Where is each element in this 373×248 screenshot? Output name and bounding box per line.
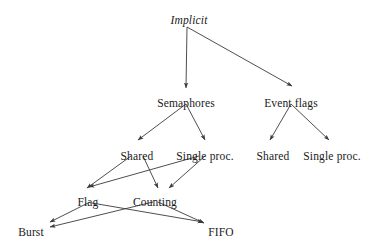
node-flag: Flag [77,196,98,208]
node-sem-single-proc: Single proc. [176,150,233,162]
edge-implicit-event-flags [187,27,292,86]
edge-eventflags-single [291,104,329,140]
node-flags-single-proc: Single proc. [303,150,360,162]
node-semaphores: Semaphores [157,97,215,109]
node-counting: Counting [133,196,177,208]
node-flags-shared: Shared [257,150,290,162]
node-fifo: FIFO [208,226,234,238]
edge-layer [0,0,373,248]
tree-diagram: ImplicitSemaphoresEvent flagsSharedSingl… [0,0,373,248]
node-sem-shared: Shared [121,150,154,162]
edge-semaphores-single [186,104,205,140]
node-burst: Burst [18,226,44,238]
node-implicit: Implicit [171,14,208,26]
node-event-flags: Event flags [264,97,318,109]
edge-eventflags-shared [270,104,291,140]
edge-semaphores-shared [138,104,186,140]
edge-implicit-semaphores [186,27,187,88]
